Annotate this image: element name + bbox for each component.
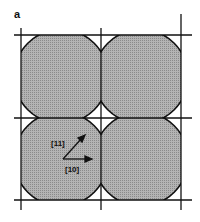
truncated-disk-bottom-right	[94, 112, 188, 206]
lattice-diagram: [11] [10]	[0, 0, 200, 222]
vector-10-label: [10]	[65, 165, 80, 174]
truncated-disk-bottom-left	[14, 112, 108, 206]
truncated-disk-top-left	[14, 30, 108, 124]
vector-11-label: [11]	[51, 139, 65, 148]
truncated-disk-top-right	[94, 30, 188, 124]
